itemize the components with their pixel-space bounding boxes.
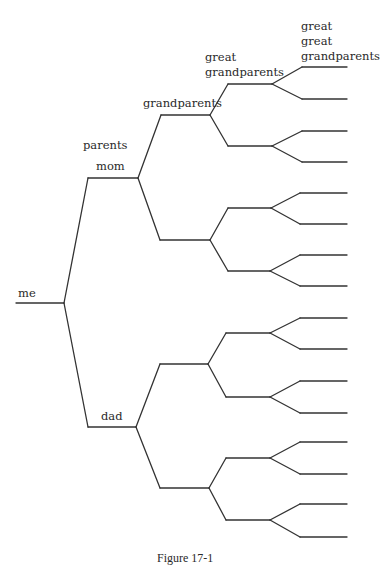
label-gg-grandparents-line1: great [301, 19, 332, 33]
label-great-grandparents-line1: great [205, 50, 236, 64]
label-great-grandparents-line2: grandparents [205, 65, 284, 79]
edge-ggp-7-to-gggp-13 [270, 442, 300, 458]
edge-ggp-3-to-gggp-5 [271, 193, 300, 208]
label-grandparents: grandparents [143, 96, 222, 110]
edge-me-to-dad [64, 303, 88, 427]
edge-mom-to-gp-mom-1 [138, 115, 161, 178]
edge-mom-to-gp-mom-2 [138, 178, 160, 240]
edge-ggp-1-to-gggp-2 [272, 84, 302, 99]
label-dad: dad [101, 409, 123, 423]
edge-ggp-5-to-gggp-10 [270, 333, 300, 349]
label-gg-grandparents-line3: grandparents [301, 49, 380, 63]
label-me: me [18, 286, 36, 300]
edge-gp-mom-2-to-ggp-4 [210, 240, 228, 271]
edge-ggp-8-to-gggp-15 [270, 504, 300, 520]
label-parents: parents [83, 138, 127, 152]
edge-ggp-5-to-gggp-9 [270, 318, 300, 333]
label-gg-grandparents-line2: great [301, 34, 332, 48]
edge-gp-dad-2-to-ggp-8 [209, 488, 226, 520]
edge-dad-to-gp-dad-1 [136, 364, 160, 427]
edge-ggp-7-to-gggp-14 [270, 458, 300, 474]
figure-caption: Figure 17-1 [157, 551, 213, 566]
edge-ggp-4-to-gggp-8 [270, 271, 300, 286]
edge-gp-mom-1-to-ggp-2 [210, 115, 228, 146]
edge-ggp-6-to-gggp-12 [270, 397, 300, 413]
edge-gp-dad-1-to-ggp-6 [208, 364, 226, 397]
edge-gp-mom-2-to-ggp-3 [210, 208, 228, 240]
edge-ggp-2-to-gggp-3 [272, 131, 302, 146]
edge-ggp-8-to-gggp-16 [270, 520, 300, 537]
edge-me-to-mom [64, 178, 88, 303]
edge-dad-to-gp-dad-2 [136, 427, 160, 488]
edge-ggp-6-to-gggp-11 [270, 381, 300, 397]
edge-gp-dad-2-to-ggp-7 [209, 458, 226, 488]
edge-ggp-2-to-gggp-4 [272, 146, 302, 162]
edge-gp-dad-1-to-ggp-5 [208, 333, 226, 364]
label-mom: mom [96, 159, 125, 173]
edge-ggp-4-to-gggp-7 [270, 255, 300, 271]
edge-ggp-3-to-gggp-6 [271, 208, 300, 224]
